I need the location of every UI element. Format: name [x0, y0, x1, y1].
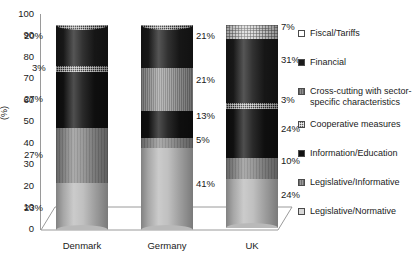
- legend-item-legislative-informative[interactable]: Legislative/Informative: [298, 177, 416, 206]
- information-education-swatch-icon: [298, 150, 305, 157]
- value-label-denmark-legislative-informative: 27%: [24, 150, 43, 160]
- legend-label-cross-cutting: Cross-cutting with sector-specific chara…: [310, 86, 416, 107]
- bar-denmark: [56, 25, 108, 230]
- legend-item-cooperative-measures[interactable]: Cooperative measures: [298, 119, 416, 148]
- category-label-denmark: Denmark: [37, 240, 127, 251]
- legislative-informative-swatch-icon: [298, 179, 305, 186]
- bar-bottom-cap-uk: [226, 223, 278, 228]
- plot-area: 20% 3% 27% 27% 23% 21% 21% 13% 5% 41%: [40, 14, 288, 230]
- bar-germany: [141, 25, 193, 230]
- y-tick-70: 70: [6, 73, 34, 83]
- segment-germany-financial: [141, 25, 193, 68]
- value-label-germany-cross-cutting: 21%: [196, 75, 215, 85]
- segment-uk-legislative-normative: [226, 179, 278, 228]
- category-label-uk: UK: [207, 240, 297, 251]
- bar-bottom-cap-germany: [141, 225, 193, 230]
- y-tick-20: 20: [6, 181, 34, 191]
- bar-top-cap-denmark: [56, 25, 108, 30]
- bar-bottom-cap-denmark: [56, 225, 108, 230]
- legend-item-information-education[interactable]: Information/Education: [298, 148, 416, 177]
- legend-label-financial: Financial: [310, 57, 346, 68]
- value-label-denmark-cooperative: 3%: [32, 63, 46, 73]
- value-label-germany-legislative-normative: 41%: [196, 179, 215, 189]
- legend-item-legislative-normative[interactable]: Legislative/Normative: [298, 206, 416, 235]
- legend-label-fiscal-tariffs: Fiscal/Tariffs: [310, 28, 360, 39]
- legend-item-financial[interactable]: Financial: [298, 57, 416, 86]
- y-tick-50: 50: [6, 116, 34, 126]
- segment-denmark-legislative-normative: [56, 183, 108, 230]
- y-tick-30: 30: [6, 159, 34, 169]
- value-label-germany-information-education: 13%: [196, 111, 215, 121]
- chart-legend: Fiscal/Tariffs Financial Cross-cutting w…: [298, 28, 416, 235]
- segment-denmark-financial: [56, 25, 108, 66]
- legend-label-cooperative-measures: Cooperative measures: [310, 119, 401, 130]
- segment-denmark-legislative-informative: [56, 128, 108, 183]
- bar-top-cap-germany: [141, 25, 193, 30]
- segment-uk-fiscal-tariffs: [226, 25, 278, 39]
- value-label-germany-financial: 21%: [196, 31, 215, 41]
- bar-top-cap-uk: [226, 25, 278, 30]
- fiscal-swatch-icon: [298, 30, 305, 37]
- value-label-denmark-information-education: 27%: [24, 94, 43, 104]
- legend-label-information-education: Information/Education: [310, 148, 398, 159]
- segment-uk-information-education: [226, 109, 278, 158]
- segment-germany-information-education: [141, 111, 193, 138]
- y-tick-80: 80: [6, 52, 34, 62]
- value-label-denmark-legislative-normative: 23%: [24, 203, 43, 213]
- legend-item-cross-cutting[interactable]: Cross-cutting with sector-specific chara…: [298, 86, 416, 119]
- cross-cutting-swatch-icon: [298, 88, 305, 95]
- legislative-normative-swatch-icon: [298, 208, 305, 215]
- cooperative-swatch-icon: [298, 121, 305, 128]
- value-label-uk-fiscal-tariffs: 7%: [281, 22, 295, 32]
- financial-swatch-icon: [298, 59, 305, 66]
- segment-germany-cross-cutting: [141, 68, 193, 111]
- stacked-bar-chart: (%) 100 90 80 70 60 50 40 30 20 10 0: [0, 0, 417, 267]
- legend-item-fiscal-tariffs[interactable]: Fiscal/Tariffs: [298, 28, 416, 57]
- segment-germany-legislative-informative: [141, 138, 193, 148]
- segment-germany-legislative-normative: [141, 148, 193, 230]
- y-tick-0: 0: [6, 224, 34, 234]
- legend-label-legislative-informative: Legislative/Informative: [310, 177, 400, 188]
- value-label-denmark-financial: 20%: [24, 31, 43, 41]
- y-tick-40: 40: [6, 138, 34, 148]
- category-label-germany: Germany: [122, 240, 212, 251]
- segment-uk-legislative-informative: [226, 158, 278, 179]
- bar-uk: [226, 25, 278, 230]
- value-label-germany-legislative-informative: 5%: [196, 135, 210, 145]
- y-tick-100: 100: [6, 9, 34, 19]
- legend-label-legislative-normative: Legislative/Normative: [310, 206, 396, 217]
- value-label-uk-cooperative: 3%: [281, 95, 295, 105]
- segment-denmark-information-education: [56, 72, 108, 127]
- segment-uk-financial: [226, 39, 278, 103]
